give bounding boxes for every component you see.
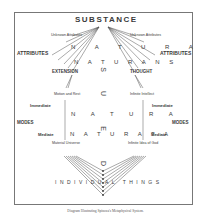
figure-caption: Diagram Illustrating Spinoza's Metaphysi…: [0, 209, 211, 213]
left-modes: MODES: [17, 121, 34, 126]
substance-title: SUBSTANCE: [75, 16, 138, 24]
natura-naturata-naturata: N A T U R A T A: [70, 131, 172, 137]
vertical-letter-s: S: [100, 67, 107, 72]
vertical-letter-u: U: [100, 91, 107, 96]
left-motion-rest: Motion and Rest: [54, 92, 76, 96]
left-mediate: Mediate: [38, 133, 54, 137]
right-unknown-attributes: Unknown Attributes: [130, 33, 154, 37]
natura-naturans-naturans: N A T U R A N S: [74, 59, 177, 65]
right-immediate: Immediate: [152, 104, 173, 108]
vertical-letter-d: D: [100, 161, 107, 166]
right-modes: MODES: [172, 121, 189, 126]
individual-things: INDIVIDUAL THINGS: [55, 180, 163, 185]
natura-naturans-natura: N A T U R A: [71, 44, 202, 50]
right-infinite-intellect: Infinite Intellect: [130, 92, 154, 96]
left-unknown-attributes: Unknown Attributes: [51, 33, 71, 37]
left-attributes: ATTRIBUTES: [17, 51, 48, 56]
left-immediate: Immediate: [30, 104, 51, 108]
right-attributes: ATTRIBUTES: [160, 51, 191, 56]
right-thought: THOUGHT: [130, 70, 152, 75]
left-material-universe: Material Universe: [52, 141, 76, 145]
left-extension: EXTENSION: [52, 70, 78, 75]
right-infinite-idea-of-god: Infinite Idea of God: [128, 141, 154, 145]
vertical-letter-e: E: [100, 126, 107, 131]
natura-naturata-natura: N A T U R A: [71, 111, 180, 117]
